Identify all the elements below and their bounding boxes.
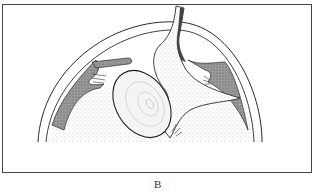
anatomical-illustration [0,0,316,192]
left-arm [92,58,132,68]
panel-label: B [0,178,316,190]
